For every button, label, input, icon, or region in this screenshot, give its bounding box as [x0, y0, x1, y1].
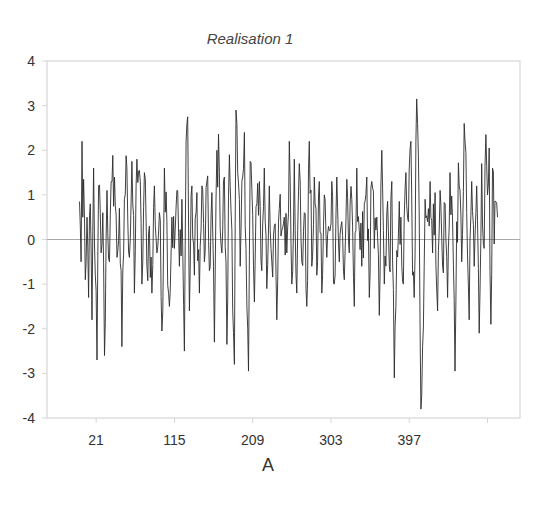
- y-tick-label: 1: [27, 187, 35, 203]
- plot-area: 43210-1-2-3-4 21115209303397: [0, 0, 558, 515]
- y-tick-label: -1: [23, 276, 36, 292]
- series-path: [80, 99, 498, 409]
- y-tick-label: 0: [27, 232, 35, 248]
- y-tick-label: 2: [27, 142, 35, 158]
- x-tick-label: 21: [88, 432, 104, 448]
- x-axis-label: A: [262, 455, 274, 476]
- y-tick-label: 4: [27, 53, 35, 69]
- x-tick-label: 397: [398, 432, 422, 448]
- y-tick-label: 3: [27, 98, 35, 114]
- x-tick-label: 303: [319, 432, 343, 448]
- x-tick-label: 115: [163, 432, 186, 448]
- x-axis: 21115209303397: [88, 418, 487, 448]
- data-series-line: [80, 99, 498, 409]
- y-tick-label: -2: [23, 321, 36, 337]
- chart-container: Realisation 1 43210-1-2-3-4 211152093033…: [0, 0, 558, 515]
- x-tick-label: 209: [241, 432, 265, 448]
- y-tick-label: -4: [23, 410, 36, 426]
- y-axis: 43210-1-2-3-4: [23, 53, 47, 426]
- y-tick-label: -3: [23, 365, 36, 381]
